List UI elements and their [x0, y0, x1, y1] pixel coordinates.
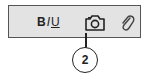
bold-button[interactable]: B [37, 16, 46, 28]
italic-button[interactable]: I [47, 16, 50, 28]
paperclip-icon[interactable] [119, 14, 135, 32]
formatting-toolbar: B I U [8, 5, 141, 38]
callout-number-badge: 2 [72, 47, 98, 73]
underline-button[interactable]: U [51, 16, 60, 28]
text-format-buttons: B I U [37, 16, 60, 28]
camera-icon[interactable] [84, 14, 106, 32]
callout-leader-line [85, 33, 87, 48]
